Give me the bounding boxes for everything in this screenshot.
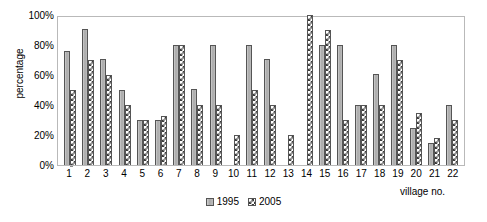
bar-2005-village-6 (161, 116, 167, 166)
bar-2005-village-17 (361, 105, 367, 165)
bar-2005-village-16 (343, 120, 349, 165)
bar-group (443, 17, 461, 165)
x-axis-tick-label: 7 (170, 167, 188, 183)
bar-group (116, 17, 134, 165)
bar-2005-village-22 (452, 120, 458, 165)
y-axis-tick-label: 80% (16, 41, 54, 51)
x-axis-tick-label: 12 (261, 167, 279, 183)
x-axis-tick-label: 10 (224, 167, 242, 183)
y-axis-tick-label: 0% (16, 161, 54, 171)
x-axis-tick-label: 22 (444, 167, 462, 183)
y-axis-tick-label: 60% (16, 71, 54, 81)
bar-group (170, 17, 188, 165)
x-axis-tick-label: 20 (407, 167, 425, 183)
x-axis-tick-label: 4 (115, 167, 133, 183)
legend-item-2005: 2005 (248, 196, 281, 207)
x-axis-tick-labels: 12345678910111213141516171819202122 (57, 167, 465, 183)
y-axis-tick-label: 20% (16, 131, 54, 141)
x-axis-tick-label: 8 (188, 167, 206, 183)
legend-label: 2005 (259, 196, 281, 207)
bar-group (225, 17, 243, 165)
bar-group (279, 17, 297, 165)
bar-group (134, 17, 152, 165)
x-axis-tick-label: 1 (60, 167, 78, 183)
bar-group (243, 17, 261, 165)
bars-layer (58, 17, 464, 165)
legend-item-1995: 1995 (206, 196, 239, 207)
x-axis-tick-label: 6 (151, 167, 169, 183)
bar-2005-village-15 (325, 30, 331, 165)
bar-group (370, 17, 388, 165)
bar-2005-village-19 (397, 60, 403, 165)
bar-group (188, 17, 206, 165)
bar-2005-village-14 (307, 15, 313, 165)
bar-2005-village-11 (252, 90, 258, 165)
bar-group (79, 17, 97, 165)
x-axis-tick-label: 5 (133, 167, 151, 183)
x-axis-tick-label: 16 (334, 167, 352, 183)
bar-2005-village-2 (88, 60, 94, 165)
bar-group (97, 17, 115, 165)
x-axis-tick-label: 2 (78, 167, 96, 183)
bar-2005-village-10 (234, 135, 240, 165)
bar-2005-village-4 (125, 105, 131, 165)
bar-group (152, 17, 170, 165)
legend-swatch-icon (248, 198, 256, 206)
plot-area (57, 16, 465, 166)
bar-2005-village-9 (216, 105, 222, 165)
bar-group (297, 17, 315, 165)
x-axis-tick-label: 19 (389, 167, 407, 183)
bar-2005-village-7 (179, 45, 185, 165)
x-axis-tick-label: 3 (97, 167, 115, 183)
bar-group (407, 17, 425, 165)
bar-2005-village-3 (106, 75, 112, 165)
bar-2005-village-21 (434, 138, 440, 165)
x-axis-tick-label: 15 (316, 167, 334, 183)
bar-group (425, 17, 443, 165)
bar-2005-village-12 (270, 105, 276, 165)
x-axis-tick-label: 14 (297, 167, 315, 183)
bar-group (388, 17, 406, 165)
bar-2005-village-18 (379, 105, 385, 165)
bar-group (334, 17, 352, 165)
x-axis-tick-label: 9 (206, 167, 224, 183)
y-axis-tick-label: 40% (16, 101, 54, 111)
chart-legend: 19952005 (0, 196, 487, 207)
bar-2005-village-1 (70, 90, 76, 165)
bar-group (316, 17, 334, 165)
bar-chart: percentage 0%20%40%60%80%100% 1234567891… (0, 0, 487, 222)
y-axis-tick-labels: 0%20%40%60%80%100% (16, 16, 54, 166)
legend-label: 1995 (217, 196, 239, 207)
legend-swatch-icon (206, 198, 214, 206)
x-axis-tick-label: 13 (279, 167, 297, 183)
x-axis-tick-label: 21 (425, 167, 443, 183)
y-axis-tick-label: 100% (16, 11, 54, 21)
bar-2005-village-8 (197, 105, 203, 165)
bar-group (352, 17, 370, 165)
x-axis-tick-label: 18 (371, 167, 389, 183)
bar-group (61, 17, 79, 165)
bar-2005-village-5 (143, 120, 149, 165)
x-axis-tick-label: 17 (352, 167, 370, 183)
bar-group (207, 17, 225, 165)
bar-group (261, 17, 279, 165)
bar-2005-village-20 (416, 113, 422, 166)
bar-2005-village-13 (288, 135, 294, 165)
x-axis-tick-label: 11 (243, 167, 261, 183)
